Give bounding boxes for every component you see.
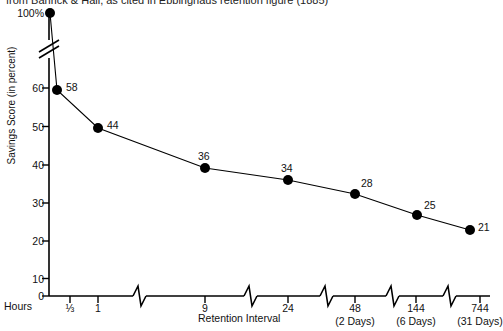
y-tick-label-0: 0 [38,290,44,302]
y-tick-label-50: 50 [32,121,44,133]
plot-canvas [0,0,503,331]
data-label-44: 44 [107,119,119,131]
x-sublabel-48: (2 Days) [335,315,375,327]
x-tick-label-24: 24 [282,302,294,314]
data-label-25: 25 [424,199,436,211]
data-point-21 [465,225,475,235]
x-sublabel-744: (31 Days) [457,315,503,327]
y-tick-label-40: 40 [32,159,44,171]
chart-figure: from Bahrick & Hall, as cited in Ebbingh… [0,0,503,331]
data-point-44 [93,123,103,133]
y-tick-label-100: 100% [17,7,44,19]
data-label-58: 58 [66,81,78,93]
y-axis-break-slash-2 [39,46,59,58]
x-tick-label-744: 744 [471,302,489,314]
x-tick-label-144: 144 [407,302,425,314]
data-point-58 [52,85,62,95]
x-tick-label-48: 48 [349,302,361,314]
x-axis-break-4 [386,286,399,306]
data-label-34: 34 [281,162,293,174]
data-label-21: 21 [478,221,490,233]
data-label-28: 28 [361,177,373,189]
y-ticks [42,88,49,296]
x-tick-label-1: 1 [95,302,101,314]
x-axis-break-1 [133,286,146,306]
data-point-36 [200,163,210,173]
data-point-25 [412,210,422,220]
y-axis-break-slash-1 [39,40,59,52]
x-axis-break-5 [443,286,456,306]
x-axis-break-2 [244,286,257,306]
data-label-36: 36 [198,150,210,162]
data-point-100 [45,8,55,18]
y-tick-label-20: 20 [32,235,44,247]
x-sublabel-144: (6 Days) [396,315,436,327]
x-tick-label-9: 9 [202,302,208,314]
y-tick-label-10: 10 [32,273,44,285]
x-axis-break-3 [320,286,333,306]
x-tick-label-third: ⅓ [66,302,75,314]
data-point-34 [283,175,293,185]
y-tick-label-60: 60 [32,82,44,94]
y-tick-label-30: 30 [32,197,44,209]
data-point-28 [350,189,360,199]
